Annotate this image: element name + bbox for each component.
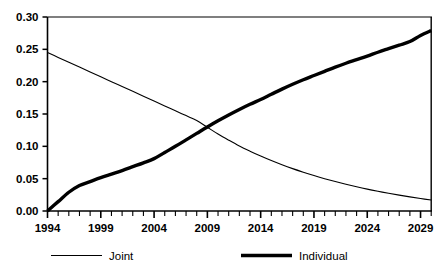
- x-tick-label: 2014: [248, 222, 274, 234]
- x-tick-label: 1999: [88, 222, 114, 234]
- y-tick-label: 0.15: [16, 108, 39, 120]
- x-tick-label: 2024: [354, 222, 380, 234]
- y-tick-label: 0.05: [16, 173, 39, 185]
- x-tick-label: 2029: [408, 222, 434, 234]
- x-tick-label: 1994: [35, 222, 61, 234]
- x-tick-label: 2019: [301, 222, 327, 234]
- line-chart: 0.000.050.100.150.200.250.30 19941999200…: [0, 0, 445, 274]
- y-tick-label: 0.10: [16, 140, 38, 152]
- y-tick-label: 0.00: [16, 205, 38, 217]
- y-tick-label: 0.30: [16, 11, 38, 23]
- legend-label-joint: Joint: [109, 250, 134, 262]
- x-tick-label: 2009: [195, 222, 221, 234]
- y-tick-label: 0.25: [16, 43, 39, 55]
- legend-label-individual: Individual: [299, 250, 348, 262]
- chart-figure: 0.000.050.100.150.200.250.30 19941999200…: [0, 0, 445, 274]
- x-tick-label: 2004: [141, 222, 167, 234]
- y-tick-label: 0.20: [16, 76, 38, 88]
